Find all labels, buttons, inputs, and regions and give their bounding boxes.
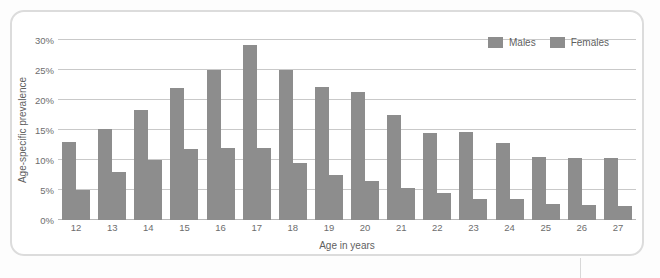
- bar-group: [419, 40, 455, 220]
- bar-group: [239, 40, 275, 220]
- bar-group: [347, 40, 383, 220]
- bar-group: [455, 40, 491, 220]
- bar-group: [94, 40, 130, 220]
- legend-item-females[interactable]: Females: [550, 37, 609, 48]
- x-axis-title: Age in years: [58, 240, 636, 251]
- y-axis-tick-label: 25%: [20, 65, 54, 76]
- x-axis-tick-label: 23: [455, 222, 491, 233]
- bar-group: [564, 40, 600, 220]
- legend-label-females: Females: [571, 37, 609, 48]
- x-axis-tick-label: 18: [275, 222, 311, 233]
- bar-group: [58, 40, 94, 220]
- bar-groups: [58, 40, 636, 220]
- bar-males-age-27[interactable]: [604, 158, 618, 220]
- x-axis-tick-label: 26: [564, 222, 600, 233]
- bar-males-age-13[interactable]: [98, 129, 112, 220]
- bar-males-age-23[interactable]: [459, 132, 473, 220]
- plot-area: [58, 40, 636, 220]
- chart-legend: Males Females: [488, 37, 609, 48]
- bar-females-age-16[interactable]: [221, 148, 235, 220]
- bar-group: [130, 40, 166, 220]
- y-axis-tick-label: 10%: [20, 155, 54, 166]
- x-axis-tick-label: 13: [94, 222, 130, 233]
- bar-males-age-15[interactable]: [170, 88, 184, 220]
- bar-females-age-12[interactable]: [76, 190, 90, 220]
- bar-males-age-26[interactable]: [568, 158, 582, 220]
- bar-females-age-26[interactable]: [582, 205, 596, 220]
- bar-group: [528, 40, 564, 220]
- x-axis-tick-label: 14: [130, 222, 166, 233]
- legend-item-males[interactable]: Males: [488, 37, 536, 48]
- bar-group: [492, 40, 528, 220]
- bar-females-age-27[interactable]: [618, 206, 632, 220]
- bar-group: [203, 40, 239, 220]
- x-axis-tick-label: 16: [203, 222, 239, 233]
- y-axis-tick-label: 15%: [20, 125, 54, 136]
- bar-group: [600, 40, 636, 220]
- x-axis-tick-label: 17: [239, 222, 275, 233]
- legend-swatch-females-icon: [550, 37, 565, 48]
- y-axis-tick-label: 0%: [20, 215, 54, 226]
- bar-females-age-14[interactable]: [148, 160, 162, 220]
- bar-males-age-12[interactable]: [62, 142, 76, 220]
- bar-males-age-21[interactable]: [387, 115, 401, 220]
- x-axis-tick-label: 24: [492, 222, 528, 233]
- bar-females-age-21[interactable]: [401, 188, 415, 220]
- bar-females-age-22[interactable]: [437, 193, 451, 220]
- bar-males-age-17[interactable]: [243, 45, 257, 220]
- x-axis-tick-label: 22: [419, 222, 455, 233]
- y-axis-tick-label: 30%: [20, 35, 54, 46]
- panel-divider-tick: [580, 258, 581, 278]
- x-axis-tick-label: 12: [58, 222, 94, 233]
- bar-males-age-22[interactable]: [423, 133, 437, 220]
- bar-males-age-25[interactable]: [532, 157, 546, 220]
- x-axis-tick-label: 15: [166, 222, 202, 233]
- x-axis-tick-label: 27: [600, 222, 636, 233]
- bar-females-age-17[interactable]: [257, 148, 271, 220]
- bar-group: [383, 40, 419, 220]
- bar-group: [275, 40, 311, 220]
- x-axis-tick-label: 25: [528, 222, 564, 233]
- bar-females-age-24[interactable]: [510, 199, 524, 220]
- bar-females-age-23[interactable]: [473, 199, 487, 220]
- y-axis-tick-label: 5%: [20, 185, 54, 196]
- chart-page: Age-specific prevalence 0%5%10%15%20%25%…: [0, 0, 660, 278]
- bar-females-age-15[interactable]: [184, 149, 198, 220]
- bar-females-age-18[interactable]: [293, 163, 307, 220]
- bar-females-age-19[interactable]: [329, 175, 343, 220]
- legend-swatch-males-icon: [488, 37, 503, 48]
- x-axis-tick-label: 19: [311, 222, 347, 233]
- bar-females-age-20[interactable]: [365, 181, 379, 220]
- bar-males-age-18[interactable]: [279, 70, 293, 220]
- y-axis-tick-label: 20%: [20, 95, 54, 106]
- bar-group: [311, 40, 347, 220]
- bar-females-age-25[interactable]: [546, 204, 560, 220]
- bar-males-age-14[interactable]: [134, 110, 148, 220]
- x-axis-tick-label: 20: [347, 222, 383, 233]
- bar-males-age-24[interactable]: [496, 143, 510, 220]
- x-axis-tick-label: 21: [383, 222, 419, 233]
- bar-males-age-19[interactable]: [315, 87, 329, 220]
- bar-males-age-20[interactable]: [351, 92, 365, 220]
- bar-females-age-13[interactable]: [112, 172, 126, 220]
- bar-group: [166, 40, 202, 220]
- legend-label-males: Males: [509, 37, 536, 48]
- x-axis-tick-labels: 12131415161718192021222324252627: [58, 222, 636, 233]
- bar-males-age-16[interactable]: [207, 70, 221, 220]
